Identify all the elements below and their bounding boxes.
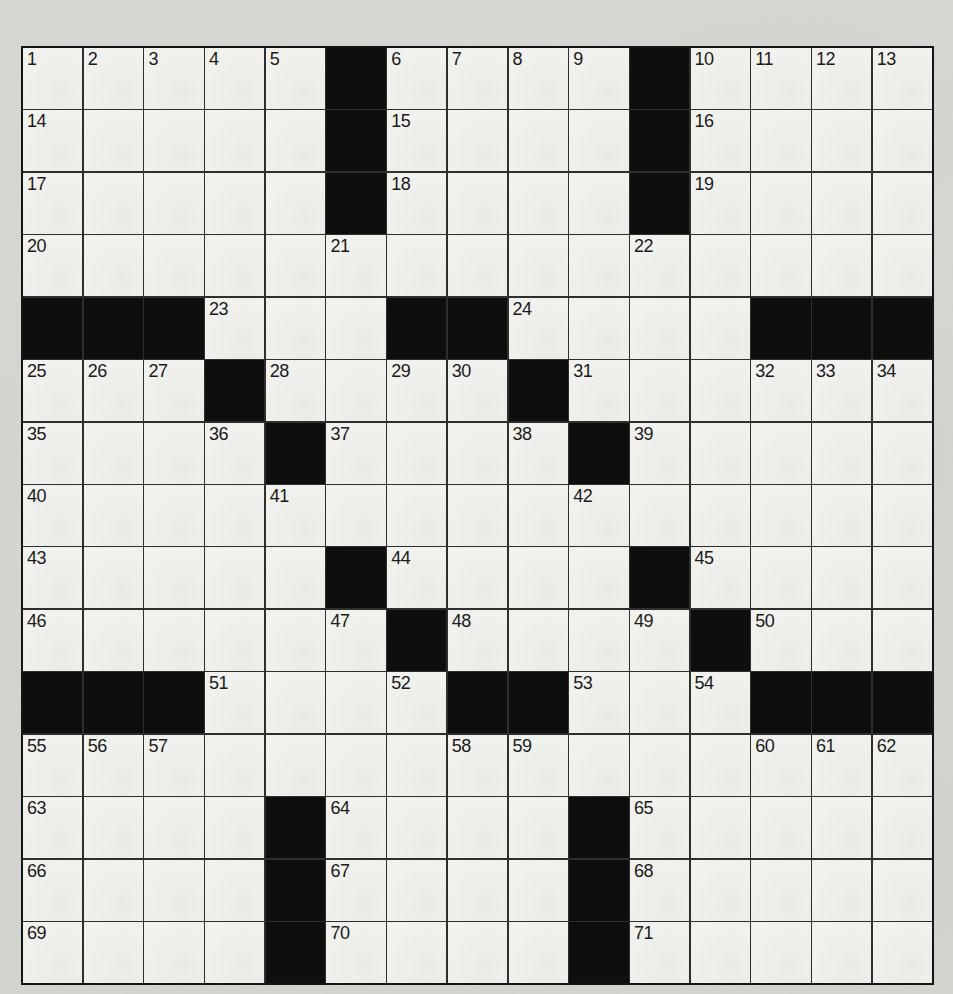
- grid-cell[interactable]: [84, 173, 143, 234]
- grid-cell[interactable]: 19: [691, 173, 750, 234]
- grid-cell[interactable]: [144, 173, 203, 234]
- grid-cell[interactable]: [873, 235, 932, 296]
- grid-cell[interactable]: 65: [630, 797, 689, 858]
- grid-cell[interactable]: 37: [326, 423, 385, 484]
- grid-cell[interactable]: [326, 360, 385, 421]
- grid-cell[interactable]: [84, 610, 143, 671]
- grid-cell[interactable]: 30: [448, 360, 507, 421]
- grid-cell[interactable]: 44: [387, 547, 446, 608]
- grid-cell[interactable]: [387, 485, 446, 546]
- grid-cell[interactable]: [812, 423, 871, 484]
- grid-cell[interactable]: [205, 860, 264, 921]
- grid-cell[interactable]: 38: [509, 423, 568, 484]
- grid-cell[interactable]: [205, 735, 264, 796]
- grid-cell[interactable]: [448, 922, 507, 983]
- grid-cell[interactable]: 54: [691, 672, 750, 733]
- grid-cell[interactable]: [144, 860, 203, 921]
- grid-cell[interactable]: [205, 235, 264, 296]
- grid-cell[interactable]: [751, 860, 810, 921]
- grid-cell[interactable]: 43: [23, 547, 82, 608]
- grid-cell[interactable]: [812, 235, 871, 296]
- grid-cell[interactable]: 8: [509, 48, 568, 109]
- grid-cell[interactable]: [84, 110, 143, 171]
- grid-cell[interactable]: [205, 485, 264, 546]
- grid-cell[interactable]: [387, 922, 446, 983]
- grid-cell[interactable]: 57: [144, 735, 203, 796]
- grid-cell[interactable]: 58: [448, 735, 507, 796]
- grid-cell[interactable]: [448, 547, 507, 608]
- grid-cell[interactable]: [509, 797, 568, 858]
- grid-cell[interactable]: 9: [569, 48, 628, 109]
- grid-cell[interactable]: [326, 485, 385, 546]
- grid-cell[interactable]: 49: [630, 610, 689, 671]
- grid-cell[interactable]: [569, 735, 628, 796]
- grid-cell[interactable]: 46: [23, 610, 82, 671]
- grid-cell[interactable]: [84, 235, 143, 296]
- grid-cell[interactable]: [387, 797, 446, 858]
- grid-cell[interactable]: [873, 797, 932, 858]
- grid-cell[interactable]: [569, 547, 628, 608]
- grid-cell[interactable]: [569, 173, 628, 234]
- grid-cell[interactable]: 23: [205, 298, 264, 359]
- grid-cell[interactable]: [266, 672, 325, 733]
- grid-cell[interactable]: 51: [205, 672, 264, 733]
- grid-cell[interactable]: 48: [448, 610, 507, 671]
- grid-cell[interactable]: [630, 298, 689, 359]
- grid-cell[interactable]: [144, 110, 203, 171]
- grid-cell[interactable]: 34: [873, 360, 932, 421]
- grid-cell[interactable]: [266, 547, 325, 608]
- grid-cell[interactable]: 25: [23, 360, 82, 421]
- grid-cell[interactable]: 21: [326, 235, 385, 296]
- grid-cell[interactable]: [873, 485, 932, 546]
- grid-cell[interactable]: [630, 735, 689, 796]
- grid-cell[interactable]: 45: [691, 547, 750, 608]
- grid-cell[interactable]: [144, 485, 203, 546]
- grid-cell[interactable]: [691, 860, 750, 921]
- grid-cell[interactable]: [205, 922, 264, 983]
- grid-cell[interactable]: 56: [84, 735, 143, 796]
- grid-cell[interactable]: 35: [23, 423, 82, 484]
- grid-cell[interactable]: 59: [509, 735, 568, 796]
- grid-cell[interactable]: [751, 547, 810, 608]
- grid-cell[interactable]: 70: [326, 922, 385, 983]
- grid-cell[interactable]: [751, 485, 810, 546]
- grid-cell[interactable]: 13: [873, 48, 932, 109]
- grid-cell[interactable]: [205, 173, 264, 234]
- grid-cell[interactable]: [812, 922, 871, 983]
- grid-cell[interactable]: [691, 360, 750, 421]
- grid-cell[interactable]: 20: [23, 235, 82, 296]
- grid-cell[interactable]: [326, 672, 385, 733]
- grid-cell[interactable]: 61: [812, 735, 871, 796]
- grid-cell[interactable]: [691, 235, 750, 296]
- grid-cell[interactable]: [205, 797, 264, 858]
- grid-cell[interactable]: [751, 922, 810, 983]
- grid-cell[interactable]: [812, 547, 871, 608]
- grid-cell[interactable]: [630, 360, 689, 421]
- grid-cell[interactable]: 64: [326, 797, 385, 858]
- grid-cell[interactable]: [812, 610, 871, 671]
- grid-cell[interactable]: [873, 922, 932, 983]
- grid-cell[interactable]: 27: [144, 360, 203, 421]
- grid-cell[interactable]: [509, 860, 568, 921]
- grid-cell[interactable]: 14: [23, 110, 82, 171]
- grid-cell[interactable]: [630, 485, 689, 546]
- grid-cell[interactable]: 69: [23, 922, 82, 983]
- grid-cell[interactable]: [448, 110, 507, 171]
- grid-cell[interactable]: 6: [387, 48, 446, 109]
- grid-cell[interactable]: 24: [509, 298, 568, 359]
- grid-cell[interactable]: 5: [266, 48, 325, 109]
- grid-cell[interactable]: [448, 797, 507, 858]
- grid-cell[interactable]: [751, 110, 810, 171]
- grid-cell[interactable]: [266, 735, 325, 796]
- grid-cell[interactable]: [144, 547, 203, 608]
- grid-cell[interactable]: [873, 860, 932, 921]
- grid-cell[interactable]: [812, 110, 871, 171]
- grid-cell[interactable]: [84, 860, 143, 921]
- grid-cell[interactable]: [812, 173, 871, 234]
- grid-cell[interactable]: 63: [23, 797, 82, 858]
- grid-cell[interactable]: [873, 423, 932, 484]
- grid-cell[interactable]: 47: [326, 610, 385, 671]
- grid-cell[interactable]: 67: [326, 860, 385, 921]
- grid-cell[interactable]: 15: [387, 110, 446, 171]
- grid-cell[interactable]: [205, 610, 264, 671]
